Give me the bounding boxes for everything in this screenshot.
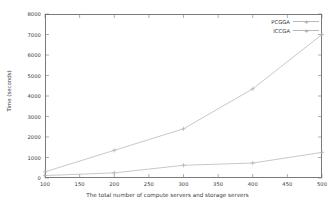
x-tick-label: 500 [317,181,327,187]
y-tick-label: 7000 [11,32,41,38]
x-tick-label: 200 [109,181,119,187]
chart-legend: PCGGA + ICCGA + [253,15,321,37]
y-tick-label: 8000 [11,11,41,17]
y-axis-ticks [45,14,322,178]
y-axis-title: Time (seconds) [6,56,12,126]
data-series-group [43,32,324,177]
plus-marker-icon: + [304,18,309,25]
x-tick-label: 250 [144,181,154,187]
x-tick-label: 400 [248,181,258,187]
legend-entry-pcgga: PCGGA + [255,17,319,26]
y-tick-label: 0 [11,175,41,181]
legend-label-iccga: ICCGA [273,28,290,34]
x-tick-label: 150 [75,181,85,187]
chart-figure: 010002000300040005000600070008000 100150… [0,0,335,210]
y-tick-label: 3000 [11,114,41,120]
y-tick-label: 5000 [11,73,41,79]
y-tick-label: 6000 [11,52,41,58]
x-tick-label: 300 [178,181,188,187]
x-axis-title: The total number of compute servers and … [0,192,335,198]
legend-label-pcgga: PCGGA [271,19,290,25]
y-tick-label: 4000 [11,93,41,99]
x-tick-label: 350 [213,181,223,187]
y-tick-label: 2000 [11,134,41,140]
legend-swatch-pcgga: + [293,18,319,25]
x-tick-label: 100 [40,181,50,187]
legend-entry-iccga: ICCGA + [255,26,319,35]
y-tick-label: 1000 [11,155,41,161]
legend-swatch-iccga: + [293,27,319,34]
plus-marker-icon: + [304,27,309,34]
x-tick-label: 450 [282,181,292,187]
x-axis-ticks [45,14,322,178]
